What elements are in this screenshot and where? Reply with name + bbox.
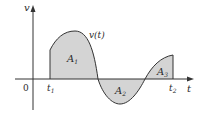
t2-label: t2 [169, 83, 177, 94]
area-under-curve-diagram: v t 0 v(t) t1 t2 A1 A2 A3 [0, 0, 207, 114]
v-axis-label: v [24, 2, 30, 13]
t-axis-arrow-icon [187, 77, 194, 82]
curve-label: v(t) [89, 30, 105, 40]
origin-label: 0 [23, 83, 29, 93]
v-axis-arrow-icon [31, 5, 36, 12]
t-axis-label: t [187, 83, 192, 94]
t1-label: t1 [47, 83, 54, 94]
